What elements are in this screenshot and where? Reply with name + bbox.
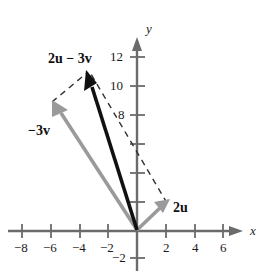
vector-2u	[137, 199, 170, 230]
x-tick-label--8: −8	[14, 241, 28, 254]
y-tick-label-8: 8	[118, 108, 125, 121]
y-tick-label-12: 12	[110, 50, 123, 63]
x-axis-arrowhead	[229, 226, 243, 236]
dashed-line-from-minus3v-to-sum	[52, 72, 88, 102]
vector--3v-shaft	[61, 113, 137, 230]
vector-label--3v: −3v	[28, 124, 50, 138]
vector-2u-minus-3v-shaft	[92, 87, 137, 230]
coordinate-plane-svg	[0, 0, 267, 277]
dashed-line-from-2u-to-sum	[91, 74, 167, 203]
x-tick-label--2: −2	[100, 241, 114, 254]
y-tick-label--2: −2	[112, 251, 126, 264]
y-tick-label-10: 10	[110, 79, 123, 92]
vector-label-2u-minus-3v: 2u − 3v	[48, 52, 92, 66]
vector-2u-shaft	[137, 207, 161, 230]
x-tick-label-6: 6	[220, 241, 227, 254]
x-tick-label--6: −6	[43, 241, 57, 254]
vector-label-2u: 2u	[173, 201, 188, 215]
x-tick-label--4: −4	[72, 241, 86, 254]
y-axis-arrowhead	[132, 37, 142, 51]
x-axis-label: x	[250, 224, 256, 237]
vector-2u-minus-3v	[84, 70, 137, 230]
x-tick-label-4: 4	[192, 241, 199, 254]
y-axis-label: y	[146, 22, 152, 35]
x-tick-label-2: 2	[163, 241, 170, 254]
x-axis	[8, 224, 243, 238]
vector-diagram-figure: y x 12 10 8 −2 −8 −6 −4 −2 2 4 6 2u − 3v…	[0, 0, 267, 277]
